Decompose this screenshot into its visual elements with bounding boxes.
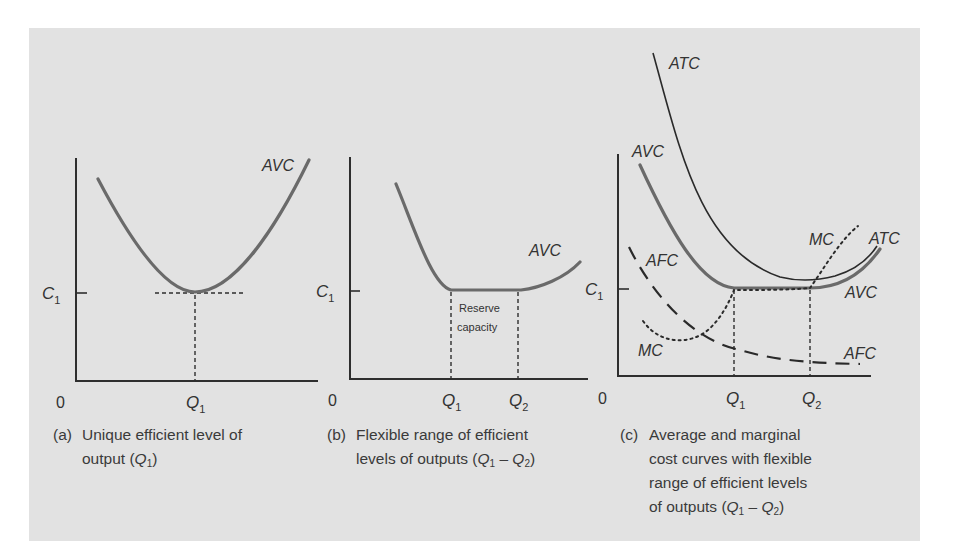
panel-c-caption: (c) Average and marginal cost curves wit… <box>620 423 910 524</box>
panel-b-axes <box>350 157 588 379</box>
panel-c: ATC AVC AFC MC MC ATC AVC AFC C1 0 Q1 Q2 <box>585 53 900 411</box>
panel-a-origin-label: 0 <box>56 394 65 411</box>
panel-b-caption-tag: (b) <box>327 423 346 447</box>
panel-b-caption-line1: Flexible range of efficient <box>356 423 607 447</box>
panel-c-caption-line1: Average and marginal <box>649 423 910 447</box>
panel-a: AVC C1 0 Q1 <box>42 157 318 415</box>
panel-b-caption: (b) Flexible range of efficient levels o… <box>327 423 607 476</box>
panel-a-q1-label: Q1 <box>186 393 205 415</box>
panel-c-caption-line2: cost curves with flexible <box>649 447 910 471</box>
panel-b-q1-label: Q1 <box>442 391 461 413</box>
panel-b: AVC Reserve capacity C1 0 Q1 Q2 <box>316 157 588 413</box>
panel-c-caption-tag: (c) <box>620 423 638 447</box>
panel-c-afc-label-right: AFC <box>843 345 876 362</box>
panel-a-avc-curve <box>98 160 309 292</box>
panel-a-avc-label: AVC <box>261 157 294 174</box>
panel-c-mc-label-right: MC <box>809 231 834 248</box>
panel-c-avc-label-right: AVC <box>844 284 877 301</box>
panel-c-caption-line4: of outputs (Q1 – Q2) <box>649 495 910 524</box>
panel-c-atc-curve <box>653 53 877 280</box>
panel-b-avc-curve <box>396 184 580 290</box>
panel-c-atc-label-top: ATC <box>668 55 700 72</box>
panel-c-atc-label-right: ATC <box>868 230 900 247</box>
panel-b-c1-label: C1 <box>316 282 334 304</box>
panel-c-c1-label: C1 <box>585 280 603 302</box>
panel-a-caption: (a) Unique efficient level of output (Q1… <box>53 423 313 476</box>
panel-c-q1-label: Q1 <box>726 389 745 411</box>
panel-b-avc-label: AVC <box>528 242 561 259</box>
panel-b-annotation-line2: capacity <box>457 321 498 333</box>
panel-b-annotation-line1: Reserve <box>459 302 500 314</box>
panel-b-q2-label: Q2 <box>509 391 528 413</box>
panel-c-q2-label: Q2 <box>802 389 821 411</box>
panel-b-origin-label: 0 <box>328 392 337 409</box>
panel-c-caption-line3: range of efficient levels <box>649 471 910 495</box>
panel-c-afc-label-top: AFC <box>645 252 678 269</box>
panel-c-avc-curve <box>640 165 880 288</box>
panel-c-origin-label: 0 <box>598 390 607 407</box>
panel-b-caption-line2: levels of outputs (Q1 – Q2) <box>356 447 607 476</box>
panel-a-caption-line1: Unique efficient level of <box>82 423 313 447</box>
panel-a-axes <box>76 158 318 381</box>
panel-c-mc-label-bottom: MC <box>638 342 663 359</box>
panel-a-caption-tag: (a) <box>53 423 72 447</box>
panel-c-avc-label-top: AVC <box>631 143 664 160</box>
panel-a-caption-line2: output (Q1) <box>82 447 313 476</box>
panel-a-c1-label: C1 <box>42 284 60 306</box>
